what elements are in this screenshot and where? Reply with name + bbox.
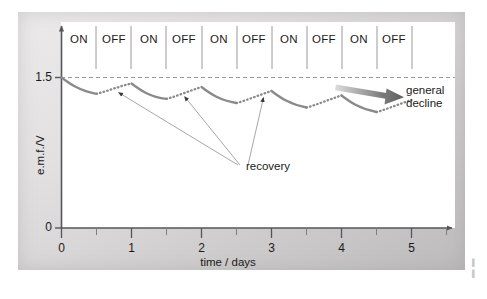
y-tick-label-0: 0 [26,220,52,234]
band-label-off-2: OFF [172,33,196,45]
x-axis-title: time / days [200,256,256,268]
figure-caption-line-1: ▌ [472,258,477,269]
band-label-on-4: ON [280,33,298,45]
x-tick-label-2: 2 [198,241,205,255]
x-tick-label-0: 0 [58,241,65,255]
recovery-leader-lines [119,93,264,166]
y-axis-title: e.m.f./V [34,135,46,175]
band-label-on-1: ON [70,33,88,45]
series-discharge-on [62,78,377,113]
x-tick-label-5: 5 [408,241,415,255]
annotation-general-decline-line2: decline [406,97,444,110]
annotation-recovery: recovery [246,160,290,173]
band-label-on-2: ON [140,33,158,45]
x-tick-label-1: 1 [128,241,135,255]
band-label-off-1: OFF [102,33,126,45]
x-tick-label-4: 4 [338,241,345,255]
band-label-off-3: OFF [242,33,266,45]
figure-caption-line-2: ▌ [472,269,477,280]
annotation-general-decline-line1: general [406,84,444,97]
band-label-off-5: OFF [382,33,406,45]
y-tick-label-1-5: 1.5 [26,70,52,84]
annotation-general-decline: general decline [406,84,444,110]
band-label-on-3: ON [210,33,228,45]
figure-caption-fragment: ▌ ▌ [472,258,477,279]
band-label-on-5: ON [350,33,368,45]
x-tick-label-3: 3 [268,241,275,255]
band-label-off-4: OFF [312,33,336,45]
general-decline-arrow [335,85,404,105]
figure-battery-emf-decline: ON OFF ON OFF ON OFF ON OFF ON OFF 1.5 0… [0,0,487,299]
